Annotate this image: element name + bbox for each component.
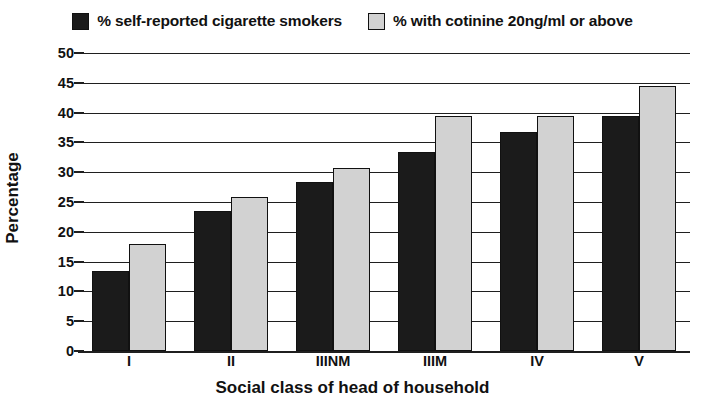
- y-axis-tick-labels: 05101520253035404550: [44, 53, 74, 351]
- bar[interactable]: [435, 116, 472, 351]
- x-axis-tick-label: V: [634, 354, 644, 369]
- y-axis-tick-mark: [74, 350, 84, 352]
- y-axis-tick-label: 45: [58, 76, 74, 91]
- y-axis-tick-mark: [74, 171, 84, 173]
- y-axis-tick-mark: [74, 290, 84, 292]
- gridline: [78, 351, 690, 353]
- x-axis-title: Social class of head of household: [0, 378, 705, 398]
- bar-group: [282, 53, 384, 351]
- y-axis-tick-label: 25: [58, 195, 74, 210]
- y-axis-tick-label: 40: [58, 105, 74, 120]
- x-axis-tick-label: IV: [530, 354, 544, 369]
- plot-area: [78, 53, 690, 351]
- y-axis-tick-label: 30: [58, 165, 74, 180]
- x-axis-tick-label: IIINM: [316, 354, 351, 369]
- y-axis-tick-label: 15: [58, 254, 74, 269]
- legend-swatch-light-icon: [368, 13, 385, 30]
- x-axis-tick-labels: IIIIIINMIIIMIVV: [78, 354, 690, 376]
- y-axis-tick-mark: [74, 52, 84, 54]
- y-axis-title-wrap: Percentage: [0, 40, 26, 355]
- y-axis-tick-label: 5: [66, 314, 74, 329]
- bar-group: [384, 53, 486, 351]
- legend-item-cotinine: % with cotinine 20ng/ml or above: [368, 13, 633, 30]
- bar[interactable]: [231, 197, 268, 351]
- bar[interactable]: [92, 271, 129, 351]
- bar-series-container: [78, 53, 690, 351]
- bar[interactable]: [537, 116, 574, 351]
- y-axis-tick-mark: [74, 320, 84, 322]
- x-axis-tick-label: II: [227, 354, 235, 369]
- y-axis-title: Percentage: [3, 152, 23, 244]
- legend-label-self-reported: % self-reported cigarette smokers: [97, 13, 342, 29]
- bar[interactable]: [194, 211, 231, 351]
- y-axis-tick-label: 50: [58, 46, 74, 61]
- y-axis-tick-mark: [74, 82, 84, 84]
- y-axis-tick-mark: [74, 201, 84, 203]
- legend-label-cotinine: % with cotinine 20ng/ml or above: [393, 13, 633, 29]
- bar[interactable]: [602, 116, 639, 351]
- y-axis-tick-label: 0: [66, 344, 74, 359]
- bar-group: [180, 53, 282, 351]
- x-axis-tick-label: IIIM: [423, 354, 447, 369]
- y-axis-tick-mark: [74, 261, 84, 263]
- bar[interactable]: [296, 182, 333, 351]
- y-axis-tick-label: 35: [58, 135, 74, 150]
- y-axis-tick-mark: [74, 112, 84, 114]
- x-axis-tick-label: I: [127, 354, 131, 369]
- bar[interactable]: [333, 168, 370, 351]
- bar[interactable]: [500, 132, 537, 351]
- legend-swatch-dark-icon: [72, 13, 89, 30]
- bar[interactable]: [398, 152, 435, 351]
- chart-root: % self-reported cigarette smokers % with…: [0, 0, 705, 414]
- chart-legend: % self-reported cigarette smokers % with…: [0, 6, 705, 36]
- y-axis-tick-mark: [74, 141, 84, 143]
- bar-group: [78, 53, 180, 351]
- y-axis-tick-label: 20: [58, 225, 74, 240]
- bar[interactable]: [129, 244, 166, 351]
- bar-group: [486, 53, 588, 351]
- bar-group: [588, 53, 690, 351]
- legend-item-self-reported: % self-reported cigarette smokers: [72, 13, 342, 30]
- bar[interactable]: [639, 86, 676, 351]
- y-axis-tick-mark: [74, 231, 84, 233]
- y-axis-tick-label: 10: [58, 284, 74, 299]
